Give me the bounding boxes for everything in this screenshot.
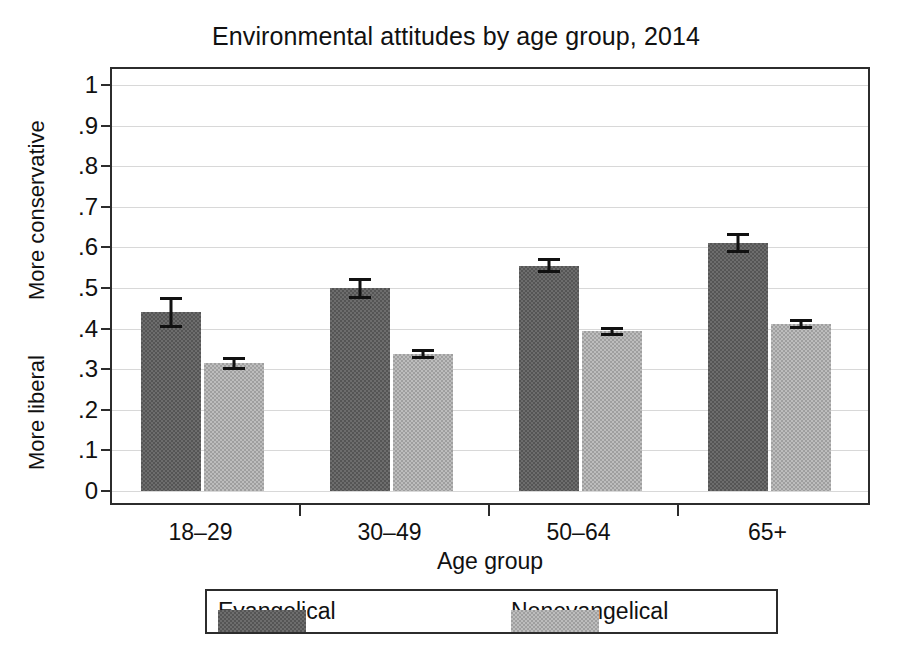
legend-entry-evangelical[interactable]: Evangelical [218, 591, 336, 632]
y-axis-tick [101, 409, 112, 411]
y-axis-tick-label: .6 [52, 235, 98, 259]
bar [330, 288, 390, 491]
error-bar [601, 327, 623, 336]
bar [393, 354, 453, 491]
plot-inner [112, 69, 868, 503]
y-axis-tick-label: .3 [52, 357, 98, 381]
x-axis-ticks [110, 505, 870, 517]
y-axis-tick [101, 368, 112, 370]
error-bar [412, 349, 434, 359]
error-bar-cap-bottom [538, 270, 560, 273]
x-axis-tick-label: 30–49 [358, 518, 422, 546]
y-axis-tick [101, 84, 112, 86]
y-axis-tick-label: .2 [52, 398, 98, 422]
y-axis-tick-label: .4 [52, 317, 98, 341]
y-axis-tick-label: 0 [52, 479, 98, 503]
error-bar-cap-bottom [223, 367, 245, 370]
error-bar-cap-top [412, 349, 434, 352]
error-bar [727, 233, 749, 253]
y-axis-tick [101, 246, 112, 248]
error-bar [790, 319, 812, 329]
error-bar-cap-top [601, 327, 623, 330]
y-axis-tick-label: .9 [52, 114, 98, 138]
legend-swatch-evangelical [218, 610, 306, 632]
x-axis-tick-labels: 18–2930–4950–6465+ [110, 518, 870, 548]
gridline [112, 85, 868, 86]
gridline [112, 207, 868, 208]
y-axis-tick [101, 449, 112, 451]
y-axis-tick-label: .1 [52, 438, 98, 462]
y-axis-tick [101, 490, 112, 492]
error-bar-cap-bottom [601, 333, 623, 336]
y-axis-tick-labels: 0.1.2.3.4.5.6.7.8.91 [44, 67, 98, 505]
error-bar-cap-top [727, 233, 749, 236]
error-bar-stem [170, 297, 173, 327]
error-bar-cap-bottom [160, 325, 182, 328]
y-axis-tick [101, 328, 112, 330]
error-bar [160, 297, 182, 327]
legend-entry-nonevangelical[interactable]: Nonevangelical [511, 591, 668, 632]
error-bar-cap-bottom [349, 296, 371, 299]
y-axis-tick [101, 165, 112, 167]
error-bar-cap-top [790, 319, 812, 322]
bar [519, 266, 579, 491]
x-axis-tick [299, 505, 301, 516]
error-bar [223, 357, 245, 370]
error-bar-cap-top [160, 297, 182, 300]
y-axis-tick [101, 206, 112, 208]
y-axis-tick [101, 125, 112, 127]
x-axis-tick [488, 505, 490, 516]
x-axis-tick-label: 65+ [748, 518, 787, 546]
x-axis-tick [677, 505, 679, 516]
chart-figure: Environmental attitudes by age group, 20… [0, 0, 912, 664]
y-axis-tick [101, 287, 112, 289]
error-bar-cap-bottom [412, 356, 434, 359]
error-bar-cap-top [538, 258, 560, 261]
x-axis-tick-label: 50–64 [547, 518, 611, 546]
gridline [112, 491, 868, 492]
y-axis-tick-label: .8 [52, 154, 98, 178]
error-bar-cap-top [223, 357, 245, 360]
bar [582, 331, 642, 491]
chart-legend: Evangelical Nonevangelical [205, 589, 778, 634]
chart-title: Environmental attitudes by age group, 20… [0, 22, 912, 51]
gridline [112, 166, 868, 167]
legend-swatch-nonevangelical [511, 610, 599, 632]
error-bar [349, 278, 371, 299]
error-bar-cap-bottom [790, 326, 812, 329]
y-axis-tick-label: 1 [52, 73, 98, 97]
gridline [112, 126, 868, 127]
plot-area [110, 67, 870, 505]
error-bar-cap-top [349, 278, 371, 281]
y-axis-tick-label: .7 [52, 195, 98, 219]
error-bar [538, 258, 560, 272]
x-axis-title: Age group [110, 548, 870, 575]
bar [708, 243, 768, 491]
bar [141, 312, 201, 491]
y-axis-tick-label: .5 [52, 276, 98, 300]
x-axis-tick-label: 18–29 [169, 518, 233, 546]
bar [204, 363, 264, 491]
bar [771, 324, 831, 491]
error-bar-cap-bottom [727, 250, 749, 253]
